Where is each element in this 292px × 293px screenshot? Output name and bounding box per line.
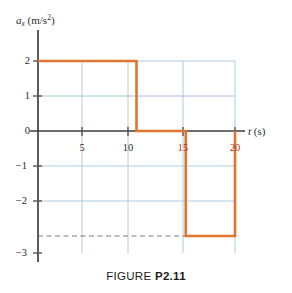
grid-vertical: [82, 61, 235, 253]
figure-caption-prefix: FIGURE: [106, 270, 155, 282]
figure-caption: FIGURE P2.11: [0, 270, 292, 282]
x-tick-label-10: 10: [117, 143, 139, 154]
x-axis-units: (s): [251, 125, 265, 137]
y-tick-label-minus-3: −3: [9, 248, 27, 259]
y-axis-units-close: ): [51, 14, 55, 26]
figure-caption-id: P2.11: [155, 270, 186, 282]
figure-container: ax (m/s2) t (s) 2 1 0 −1 −2 −3 5 10 15 2…: [0, 0, 292, 293]
x-tick-label-20: 20: [224, 143, 246, 154]
y-axis-label: ax (m/s2): [16, 14, 55, 28]
y-tick-label-2: 2: [12, 56, 30, 67]
x-tick-label-15: 15: [172, 143, 194, 154]
x-tick-label-5: 5: [71, 143, 93, 154]
x-axis-label: t (s): [248, 126, 265, 137]
y-tick-label-minus-2: −2: [9, 196, 27, 207]
y-axis-units-open: (m/s: [25, 14, 47, 26]
y-tick-label-1: 1: [12, 91, 30, 102]
y-tick-label-0: 0: [12, 126, 30, 137]
y-tick-label-minus-1: −1: [9, 161, 27, 172]
